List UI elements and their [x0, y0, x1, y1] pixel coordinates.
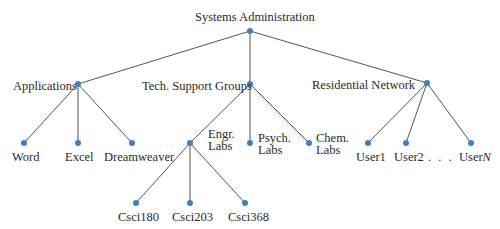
- node-user1: [365, 140, 371, 146]
- node-psych: [247, 140, 253, 146]
- edge-root-residential: [250, 31, 427, 83]
- label-usern-variable: N: [483, 150, 491, 164]
- label-dreamweaver: Dreamweaver: [104, 151, 174, 164]
- label-user1: User1: [356, 151, 386, 164]
- label-csci180: Csci180: [118, 211, 159, 224]
- node-engr: [187, 140, 193, 146]
- label-psych-labs-line2: Labs: [258, 144, 282, 157]
- label-csci368: Csci368: [228, 211, 269, 224]
- edge-residential-user1: [368, 83, 427, 143]
- node-csci203: [187, 200, 193, 206]
- node-csci368: [242, 200, 248, 206]
- node-excel: [75, 140, 81, 146]
- label-chem-labs-line2: Labs: [316, 144, 340, 157]
- label-csci203: Csci203: [172, 211, 213, 224]
- node-word: [21, 140, 27, 146]
- label-ellipsis: . . .: [428, 151, 454, 164]
- edge-residential-usern: [427, 83, 471, 143]
- edge-residential-user2: [406, 83, 427, 143]
- node-usern: [468, 140, 474, 146]
- label-word: Word: [12, 151, 39, 164]
- node-dreamweaver: [129, 140, 135, 146]
- node-csci180: [133, 200, 139, 206]
- label-engr-labs-line2: Labs: [208, 140, 232, 153]
- label-residential-network: Residential Network: [312, 79, 415, 92]
- label-user2: User2: [394, 151, 424, 164]
- label-usern: UserN: [459, 151, 491, 164]
- node-user2: [403, 140, 409, 146]
- label-usern-prefix: User: [459, 150, 483, 164]
- label-excel: Excel: [65, 151, 93, 164]
- edge-root-applications: [78, 31, 250, 84]
- node-chem: [306, 140, 312, 146]
- node-root: [247, 28, 253, 34]
- tree-diagram: Systems Administration Applications Tech…: [0, 0, 500, 229]
- node-residential: [424, 80, 430, 86]
- label-tech-support-groups: Tech. Support Groups: [142, 80, 252, 93]
- label-systems-administration: Systems Administration: [195, 11, 315, 24]
- edge-applications-dreamweaver: [78, 84, 132, 143]
- label-applications: Applications: [13, 80, 77, 93]
- tree-edges: [0, 0, 500, 229]
